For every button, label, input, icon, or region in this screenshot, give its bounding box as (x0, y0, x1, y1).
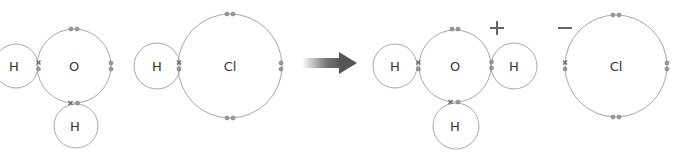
electron-dot (279, 67, 283, 71)
electron-dot (611, 115, 615, 119)
hcl-hydrogen-label: H (152, 59, 162, 74)
electron-dot (231, 116, 235, 120)
chloride-ion: Cl (558, 13, 669, 119)
electron-dot (617, 13, 621, 17)
electron-dot (665, 67, 669, 71)
electron-dot (279, 61, 283, 65)
electron-dot (490, 60, 494, 64)
hcl-molecule: H Cl (134, 12, 283, 120)
electron-dot (225, 12, 229, 16)
hydronium-hydrogen-left-label: H (390, 59, 400, 74)
reaction-arrow-icon (302, 52, 357, 74)
water-oxygen-label: O (69, 59, 79, 74)
electron-dot (231, 12, 235, 16)
hydronium-ion: H O H H (373, 21, 537, 149)
electron-dot (456, 27, 460, 31)
hydronium-hydrogen-right-label: H (509, 59, 519, 74)
electron-dot (75, 27, 79, 31)
electron-dot (76, 101, 80, 105)
electron-dot (665, 61, 669, 65)
chloride-label: Cl (610, 59, 623, 74)
electron-dot (563, 67, 567, 71)
electron-dot (490, 66, 494, 70)
electron-dot (69, 27, 73, 31)
electron-dot (611, 13, 615, 17)
hcl-chlorine-label: Cl (224, 59, 237, 74)
electron-dot (456, 100, 460, 104)
electron-dot (109, 61, 113, 65)
water-hydrogen-bottom-label: H (70, 119, 80, 134)
water-hydrogen-left-shell (0, 44, 38, 88)
hydronium-hydrogen-bottom-label: H (450, 119, 460, 134)
electron-dot (417, 67, 421, 71)
electron-dot (177, 67, 181, 71)
water-hydrogen-left-label: H (9, 59, 19, 74)
water-molecule: H O H (0, 27, 113, 148)
electron-dot (617, 115, 621, 119)
electron-dot (225, 116, 229, 120)
electron-dot (109, 67, 113, 71)
electron-dot (37, 67, 41, 71)
positive-charge-icon (490, 21, 504, 35)
electron-dot (450, 27, 454, 31)
reaction-diagram: H O H H Cl (0, 0, 681, 158)
hydronium-oxygen-label: O (450, 59, 460, 74)
